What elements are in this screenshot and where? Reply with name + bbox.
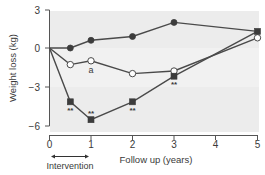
x-axis-title: Follow up (years) [120,154,193,165]
filled-circle-marker [130,34,136,40]
filled-square-marker [255,28,261,34]
x-tick-label: 2 [130,139,136,150]
y-tick-label: −3 [29,82,41,93]
filled-circle-marker [67,45,73,51]
open-circle-marker [129,70,135,76]
significance-marker: ** [129,106,136,115]
filled-square-marker [67,99,73,105]
x-tick-label: 1 [88,139,94,150]
y-axis [45,10,50,126]
x-axis [49,136,258,141]
filled-circle-marker [88,37,94,43]
intervention-label: Intervention [46,161,93,171]
open-circle-marker [88,58,94,64]
weight-loss-chart: 3 0 −3 −6 0 1 2 3 4 5 Weight loss (kg) F… [0,0,265,175]
open-circle-marker [254,35,260,41]
significance-marker: ** [171,80,178,89]
y-axis-title: Weight loss (kg) [7,34,18,102]
filled-square-marker [130,99,136,105]
filled-square-marker [171,73,177,79]
x-tick-label: 5 [255,139,261,150]
filled-circle-marker [171,19,177,25]
y-tick-label: 3 [34,5,40,16]
x-tick-label: 0 [47,139,53,150]
intervention-arrow [51,155,89,159]
x-tick-label: 3 [171,139,177,150]
open-circle-marker [67,61,73,67]
y-tick-label: −6 [29,121,41,132]
significance-marker: ** [88,109,95,118]
annotation-a: a [88,65,93,75]
y-tick-label: 0 [34,43,40,54]
x-tick-label: 4 [213,139,219,150]
plot-band [50,48,259,87]
significance-marker: ** [67,106,74,115]
